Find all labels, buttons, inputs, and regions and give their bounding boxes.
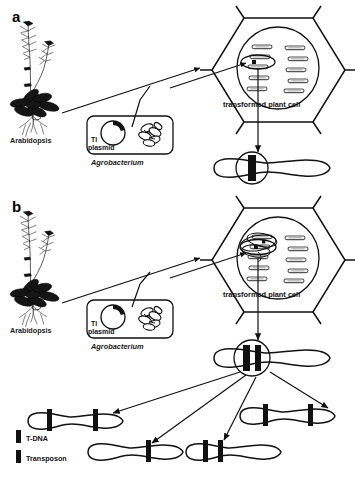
legend-swatch-t-dna	[16, 430, 21, 443]
leader-plant-to-cell-b	[62, 258, 200, 303]
panel-a-letter: a	[12, 8, 21, 25]
panel-b: b Arabidopsis Ti plasmid Agrobacterium	[10, 196, 355, 462]
ti-plasmid-label-line2-b: plasmid	[88, 328, 114, 336]
parent-chromosome-b	[214, 340, 330, 376]
ti-plasmid-label-line1-a: Ti	[91, 136, 97, 143]
legend-label-t-dna: T-DNA	[26, 434, 48, 443]
divergence-arrow-right	[270, 372, 328, 408]
legend-swatch-transposon	[16, 450, 21, 463]
transposon-band-lower-left	[146, 440, 151, 462]
arabidopsis-plant-a	[10, 21, 60, 137]
t-dna-band-lower-center	[203, 440, 208, 462]
agrobacterium-box-a: Ti plasmid	[87, 116, 173, 154]
panel-b-letter: b	[12, 198, 21, 215]
ti-plasmid-label-line2-a: plasmid	[88, 144, 114, 152]
arabidopsis-label-a: Arabidopsis	[10, 136, 52, 145]
arabidopsis-label-b: Arabidopsis	[10, 326, 52, 335]
figure-root: a Arabidopsis Ti plasmid Agrobacterium	[0, 0, 355, 480]
product-chromosome-b-left	[28, 409, 123, 431]
legend-label-transposon: Transposon	[26, 454, 67, 463]
transposon-band-b-parent	[255, 345, 261, 371]
leader-plant-to-cell-a	[62, 68, 200, 113]
agrobacterium-box-b: Ti plasmid	[87, 300, 173, 338]
infection-arrow-a	[170, 63, 246, 88]
arabidopsis-plant-b	[10, 211, 60, 327]
product-chromosome-b-lower-left	[88, 440, 183, 462]
panel-a: a Arabidopsis Ti plasmid Agrobacterium	[10, 6, 355, 184]
agrobacterium-label-a: Agrobacterium	[90, 158, 144, 167]
t-dna-band-b-parent	[243, 345, 250, 371]
t-dna-band-right	[263, 404, 268, 426]
product-chromosome-b-lower-center	[186, 440, 281, 462]
ti-plasmid-label-line1-b: Ti	[91, 320, 97, 327]
transposon-band-left	[93, 409, 98, 431]
transformed-plant-cell-label-b: transformed plant cell	[223, 290, 300, 299]
t-dna-band-left	[47, 409, 52, 431]
product-chromosome-a	[214, 152, 330, 184]
diagram-canvas: a Arabidopsis Ti plasmid Agrobacterium	[0, 0, 355, 480]
nucleus-chromosomes-b	[247, 235, 308, 283]
infection-arrow-b	[170, 253, 246, 278]
transposon-band-lower-center	[218, 440, 223, 462]
t-dna-band-a	[248, 155, 256, 181]
transposon-band-right	[308, 404, 313, 426]
product-chromosome-b-right	[240, 404, 335, 426]
legend: T-DNA Transposon	[16, 430, 67, 463]
transformed-plant-cell-label-a: transformed plant cell	[223, 100, 300, 109]
leader-plasmid-to-cell-a	[132, 86, 150, 127]
agrobacterium-label-b: Agrobacterium	[90, 342, 144, 351]
